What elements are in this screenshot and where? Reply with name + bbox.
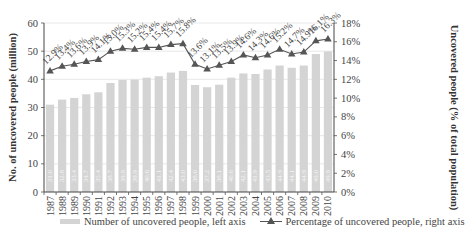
year-tick-label: 1994 (129, 196, 140, 216)
bar-value-label: 43.5 (264, 169, 272, 182)
year-tick-label: 1992 (105, 196, 116, 216)
bar-value-label: 44.9 (300, 169, 308, 182)
triangle-marker-icon (179, 40, 187, 47)
year-tick-label: 2008 (298, 196, 309, 216)
year-tick-label: 1987 (45, 196, 56, 216)
year-tick-label: 2005 (262, 196, 273, 216)
bar-value-label: 41.1 (155, 169, 163, 182)
triangle-marker-icon (227, 57, 235, 64)
bar-value-label: 37.2 (203, 169, 211, 182)
triangle-marker-icon (240, 51, 248, 58)
year-tick-label: 2002 (226, 196, 237, 216)
bar-value-label: 44.9 (276, 169, 284, 182)
year-tick-label: 2007 (286, 196, 297, 216)
right-tick-label: 16% (341, 36, 361, 47)
triangle-marker-icon (191, 60, 199, 67)
bar-value-label: 42.1 (239, 169, 247, 182)
bar-value-label: 34.7 (82, 169, 90, 182)
legend: Number of uncovered people, left axis Pe… (60, 214, 465, 228)
legend-triangle-line-icon (260, 216, 282, 226)
bar-value-label: 40.6 (227, 169, 235, 182)
right-tick-label: 2% (341, 168, 355, 179)
bar-value-label: 33.4 (70, 169, 78, 182)
triangle-marker-icon (324, 35, 332, 42)
year-tick-label: 1995 (141, 196, 152, 216)
left-tick-label: 20 (28, 130, 39, 141)
year-tick-label: 1993 (117, 196, 128, 216)
year-tick-label: 1989 (69, 196, 80, 216)
right-tick-label: 6% (341, 130, 355, 141)
legend-line-label: Percentage of uncovered people, right ax… (286, 216, 465, 227)
year-tick-label: 1988 (57, 196, 68, 216)
left-tick-label: 0 (33, 187, 38, 198)
right-tick-label: 18% (341, 18, 361, 29)
bar-value-label: 40.6 (143, 169, 151, 182)
bar-value-label: 35.4 (94, 169, 102, 182)
left-tick-label: 10 (28, 158, 39, 169)
year-tick-label: 2006 (274, 196, 285, 216)
line-series: 12.9%13.4%13.6%13.9%14.1%15.0%15.3%15.2%… (40, 10, 342, 73)
legend-bar-swatch (60, 219, 80, 224)
year-tick-label: 1998 (177, 196, 188, 216)
year-tick-label: 2009 (310, 196, 321, 216)
year-tick-label: 1991 (93, 196, 104, 216)
right-axis-title: Uncovered people (% of total population) (448, 25, 460, 211)
triangle-marker-icon (119, 44, 127, 51)
bar-value-label: 32.8 (58, 169, 66, 182)
bar-value-label: 44.1 (288, 169, 296, 182)
year-tick-label: 2003 (238, 196, 249, 216)
right-tick-label: 12% (341, 74, 361, 85)
right-tick-label: 0% (341, 187, 355, 198)
year-tick-label: 2000 (202, 196, 213, 216)
left-tick-label: 60 (28, 18, 39, 29)
bar-value-label: 39.8 (119, 169, 127, 182)
left-tick-label: 50 (28, 46, 39, 57)
right-tick-label: 4% (341, 149, 355, 160)
year-tick-label: 1996 (153, 196, 164, 216)
bar-value-label: 31.0 (46, 169, 54, 182)
left-axis-title: No. of uncovered people (million) (7, 33, 19, 182)
bar-series: 31.032.833.434.735.438.739.839.940.641.1… (46, 51, 332, 192)
bar-value-label: 38.7 (106, 169, 114, 182)
bar-value-label: 43.0 (179, 169, 187, 182)
year-tick-label: 1990 (81, 196, 92, 216)
bar-value-label: 38.1 (215, 169, 223, 182)
left-tick-label: 30 (28, 102, 39, 113)
right-tick-label: 10% (341, 93, 361, 104)
bar-value-label: 49.9 (324, 169, 332, 182)
legend-bar-label: Number of uncovered people, left axis (84, 216, 246, 227)
triangle-marker-icon (95, 56, 103, 63)
year-tick-label: 1997 (165, 196, 176, 216)
year-tick-label: 2001 (214, 196, 225, 216)
year-tick-label: 2004 (250, 196, 261, 216)
triangle-marker-icon (276, 45, 284, 52)
bar-value-label: 38.0 (191, 169, 199, 182)
bar-value-label: 49.0 (312, 169, 320, 182)
year-tick-label: 2010 (322, 196, 333, 216)
bar-value-label: 39.9 (131, 169, 139, 182)
right-tick-label: 14% (341, 55, 361, 66)
right-tick-label: 8% (341, 111, 355, 122)
bar-value-label: 41.9 (251, 169, 259, 182)
year-tick-label: 1999 (190, 196, 201, 216)
triangle-marker-icon (143, 43, 151, 50)
left-tick-label: 40 (28, 74, 39, 85)
bar-value-label: 42.4 (167, 169, 175, 182)
